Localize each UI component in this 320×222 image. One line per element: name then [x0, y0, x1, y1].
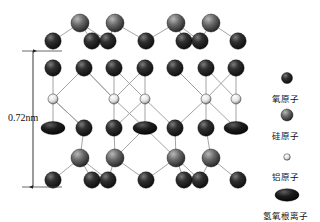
- atom-aluminum: [231, 94, 241, 104]
- atom-aluminum: [48, 94, 58, 104]
- atom-silicon: [71, 149, 89, 167]
- atom-silicon: [202, 149, 220, 167]
- atom-aluminum: [140, 94, 150, 104]
- atom-oxygen: [228, 60, 244, 76]
- atom-oxygen: [176, 33, 192, 49]
- atom-silicon: [167, 149, 185, 167]
- legend-label-silicon: 硅原子: [250, 129, 320, 141]
- atom-oxygen: [192, 33, 208, 49]
- atom-oxygen: [45, 60, 61, 76]
- legend-swatch-oxygen: [282, 73, 293, 84]
- atom-oxygen: [230, 33, 246, 49]
- atom-oxygen: [106, 120, 122, 136]
- atom-oxygen: [138, 33, 154, 49]
- atom-oxygen: [176, 172, 192, 188]
- atom-oxygen: [45, 33, 61, 49]
- legend-label-aluminum: 铝原子: [250, 170, 320, 182]
- atom-oxygen: [100, 33, 116, 49]
- atom-oxygen: [167, 120, 183, 136]
- atom-oxygen: [84, 172, 100, 188]
- legend-label-hydroxyl: 氢氧根离子: [250, 209, 320, 221]
- atom-oxygen: [76, 120, 92, 136]
- atom-oxygen: [45, 172, 61, 188]
- legend-swatch-hydroxyl: [275, 189, 299, 201]
- legend-swatch-silicon: [281, 109, 293, 121]
- atom-oxygen: [167, 60, 183, 76]
- atom-oxygen: [198, 60, 214, 76]
- atom-oxygen: [137, 60, 153, 76]
- crystal-structure-diagram: [0, 0, 320, 222]
- atom-aluminum: [109, 94, 119, 104]
- atom-oxygen: [106, 60, 122, 76]
- atom-silicon: [106, 14, 124, 32]
- legend-swatch-aluminum: [284, 154, 291, 161]
- atom-layer: [41, 14, 248, 188]
- atom-oxygen: [76, 60, 92, 76]
- atom-oxygen: [198, 120, 214, 136]
- atom-silicon: [71, 14, 89, 32]
- legend-label-oxygen: 氧原子: [250, 92, 320, 104]
- atom-silicon: [202, 14, 220, 32]
- atom-oxygen: [84, 33, 100, 49]
- atom-oxygen: [192, 172, 208, 188]
- atom-hydroxyl: [41, 122, 65, 135]
- atom-oxygen: [138, 172, 154, 188]
- atom-oxygen: [230, 172, 246, 188]
- atom-oxygen: [100, 172, 116, 188]
- atom-silicon: [106, 149, 124, 167]
- atom-aluminum: [201, 94, 211, 104]
- atom-silicon: [167, 14, 185, 32]
- atom-hydroxyl: [224, 122, 248, 135]
- atom-hydroxyl: [133, 122, 157, 135]
- dimension-label: 0.72nm: [8, 112, 38, 123]
- figure-canvas: 0.72nm 氧原子硅原子铝原子氢氧根离子: [0, 0, 320, 222]
